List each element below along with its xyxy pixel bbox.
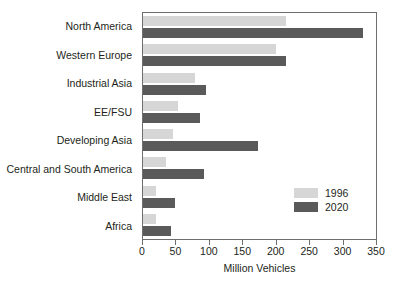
x-tick-label: 200 bbox=[267, 246, 285, 257]
legend-label: 1996 bbox=[325, 188, 348, 199]
category-label: Western Europe bbox=[0, 41, 138, 70]
bar-group bbox=[143, 154, 376, 182]
legend-item: 2020 bbox=[294, 202, 348, 213]
legend-swatch bbox=[294, 202, 318, 212]
bar-1996 bbox=[143, 16, 286, 26]
category-label: Central and South America bbox=[0, 155, 138, 184]
x-tick-label: 50 bbox=[170, 246, 182, 257]
x-tick-label: 250 bbox=[300, 246, 318, 257]
bar-group bbox=[143, 13, 376, 41]
category-label: North America bbox=[0, 12, 138, 41]
bar-1996 bbox=[143, 44, 276, 54]
category-label: Africa bbox=[0, 212, 138, 241]
bar-2020 bbox=[143, 85, 206, 95]
bar-1996 bbox=[143, 101, 178, 111]
x-tick-label: 100 bbox=[200, 246, 218, 257]
bar-1996 bbox=[143, 129, 173, 139]
legend-label: 2020 bbox=[325, 202, 348, 213]
bar-2020 bbox=[143, 141, 258, 151]
x-tick-label: 300 bbox=[334, 246, 352, 257]
bar-2020 bbox=[143, 198, 175, 208]
x-tick-label: 0 bbox=[139, 246, 145, 257]
bar-1996 bbox=[143, 186, 156, 196]
category-label: Developing Asia bbox=[0, 126, 138, 155]
bar-chart: North AmericaWestern EuropeIndustrial As… bbox=[0, 0, 407, 289]
bar-group bbox=[143, 98, 376, 126]
bar-2020 bbox=[143, 56, 286, 66]
category-label: EE/FSU bbox=[0, 98, 138, 127]
bar-1996 bbox=[143, 157, 166, 167]
bar-2020 bbox=[143, 169, 204, 179]
x-tick-label: 350 bbox=[367, 246, 385, 257]
bar-group bbox=[143, 41, 376, 69]
bar-1996 bbox=[143, 73, 195, 83]
category-label: Middle East bbox=[0, 183, 138, 212]
bar-2020 bbox=[143, 113, 200, 123]
category-axis: North AmericaWestern EuropeIndustrial As… bbox=[0, 12, 138, 240]
bar-group bbox=[143, 211, 376, 239]
bar-group bbox=[143, 126, 376, 154]
bar-group bbox=[143, 70, 376, 98]
legend-swatch bbox=[294, 188, 318, 198]
bar-1996 bbox=[143, 214, 156, 224]
chart-legend: 19962020 bbox=[294, 188, 348, 212]
legend-item: 1996 bbox=[294, 188, 348, 199]
x-tick-label: 150 bbox=[234, 246, 252, 257]
x-axis-title: Million Vehicles bbox=[142, 263, 377, 274]
bar-2020 bbox=[143, 226, 171, 236]
bar-2020 bbox=[143, 28, 363, 38]
category-label: Industrial Asia bbox=[0, 69, 138, 98]
